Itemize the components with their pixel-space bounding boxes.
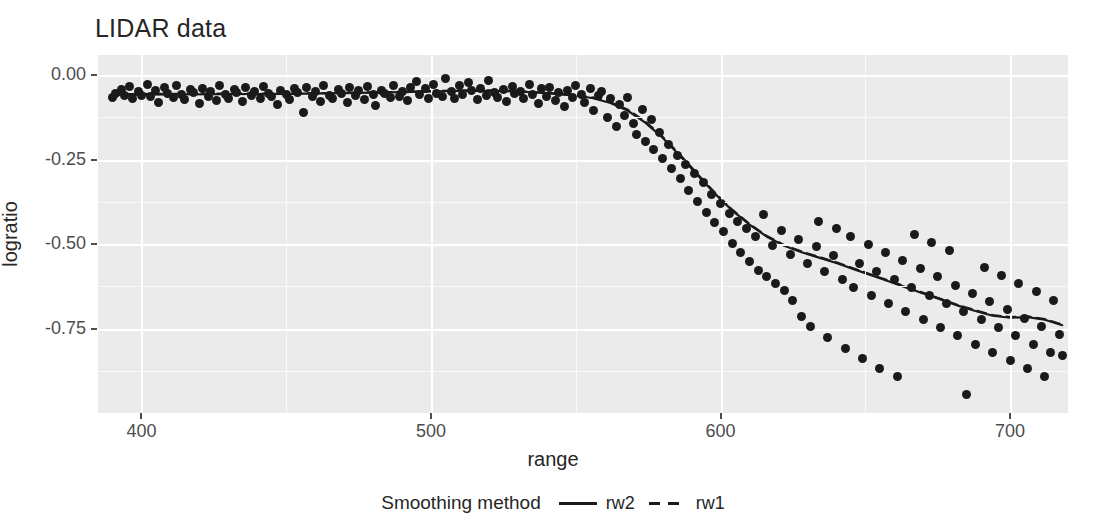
y-tick-label: -0.25 (45, 149, 86, 170)
gridline-major-horizontal (98, 244, 1068, 246)
data-point (143, 80, 152, 89)
data-point (499, 85, 508, 94)
data-point (638, 105, 647, 114)
data-point (919, 315, 928, 324)
data-point (881, 248, 890, 257)
data-point (768, 241, 777, 250)
data-point (736, 248, 745, 257)
x-tick-mark (1009, 413, 1011, 419)
data-point (942, 299, 951, 308)
legend-title: Smoothing method (381, 492, 541, 514)
data-point (667, 164, 676, 173)
x-tick-label: 400 (126, 421, 156, 442)
data-point (641, 137, 650, 146)
data-point (980, 263, 989, 272)
data-point (467, 86, 476, 95)
y-tick-label: 0.00 (51, 64, 86, 85)
data-point (780, 286, 789, 295)
data-point (1023, 364, 1032, 373)
data-point (195, 99, 204, 108)
data-point (285, 95, 294, 104)
gridline-major-horizontal (98, 329, 1068, 331)
data-point (855, 259, 864, 268)
data-point (925, 291, 934, 300)
data-point (1049, 296, 1058, 305)
data-point (525, 80, 534, 89)
gridline-minor-horizontal (98, 202, 1068, 203)
data-point (693, 197, 702, 206)
data-point (1040, 372, 1049, 381)
data-point (1046, 348, 1055, 357)
data-point (794, 235, 803, 244)
data-point (702, 208, 711, 217)
data-point (699, 178, 708, 187)
x-tick-mark (430, 413, 432, 419)
y-tick-label: -0.50 (45, 233, 86, 254)
data-point (424, 94, 433, 103)
gridline-minor-vertical (286, 55, 287, 413)
legend-item-rw1[interactable]: rw1 (649, 493, 725, 514)
data-point (707, 190, 716, 199)
data-point (421, 84, 430, 93)
data-point (728, 239, 737, 248)
legend-item-rw2[interactable]: rw2 (559, 493, 635, 514)
data-point (343, 98, 352, 107)
legend-label-rw1: rw1 (696, 493, 725, 514)
data-point (806, 322, 815, 331)
data-point (450, 94, 459, 103)
smoothing-curves (98, 55, 1068, 413)
data-point (586, 84, 595, 93)
data-point (910, 230, 919, 239)
data-point (542, 92, 551, 101)
data-point (841, 344, 850, 353)
data-point (473, 95, 482, 104)
x-tick-label: 700 (995, 421, 1025, 442)
data-point (890, 275, 899, 284)
data-point (786, 250, 795, 259)
x-tick-label: 500 (416, 421, 446, 442)
data-point (412, 77, 421, 86)
data-point (988, 348, 997, 357)
data-point (1032, 287, 1041, 296)
data-point (719, 227, 728, 236)
data-point (612, 122, 621, 131)
curve-rw1 (112, 90, 1062, 324)
data-point (1058, 351, 1067, 360)
gridline-minor-horizontal (98, 117, 1068, 118)
data-point (655, 128, 664, 137)
data-point (172, 81, 181, 90)
data-point (189, 88, 198, 97)
data-point (971, 340, 980, 349)
data-point (256, 94, 265, 103)
data-point (597, 87, 606, 96)
data-point (137, 91, 146, 100)
data-point (398, 87, 407, 96)
data-point (812, 242, 821, 251)
data-point (337, 89, 346, 98)
chart-title: LIDAR data (95, 14, 226, 43)
data-point (962, 390, 971, 399)
data-point (864, 240, 873, 249)
data-point (560, 102, 569, 111)
data-point (745, 257, 754, 266)
data-point (120, 91, 129, 100)
gridline-major-vertical (431, 55, 433, 413)
data-point (858, 354, 867, 363)
data-point (363, 82, 372, 91)
data-point (1020, 314, 1029, 323)
y-tick-mark (91, 243, 97, 245)
data-point (647, 115, 656, 124)
x-axis-title: range (0, 448, 1106, 471)
data-point (429, 80, 438, 89)
data-point (389, 81, 398, 90)
x-tick-label: 600 (706, 421, 736, 442)
data-point (502, 97, 511, 106)
chart-root: LIDAR data 0.00-0.25-0.50-0.75 400500600… (0, 0, 1106, 526)
data-point (997, 271, 1006, 280)
data-point (945, 246, 954, 255)
data-point (169, 93, 178, 102)
gridline-minor-vertical (576, 55, 577, 413)
data-point (224, 94, 233, 103)
data-point (632, 130, 641, 139)
legend-key-dashed-icon (649, 496, 687, 510)
